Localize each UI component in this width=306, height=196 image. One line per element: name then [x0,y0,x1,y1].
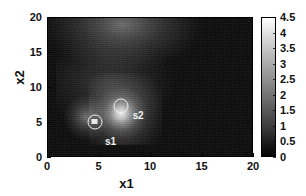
colorbar-tick-mark [273,110,276,111]
colorbar-tick-label: 2.5 [280,73,295,85]
marker-label-s2: s2 [133,110,144,121]
colorbar-tick-mark [273,95,276,96]
y-tick-mark [47,87,51,88]
colorbar-tick-mark [273,157,276,158]
colorbar-tick-label: 1.5 [280,104,295,116]
colorbar-tick-label: 0 [280,151,286,163]
x-axis-label: x1 [0,176,253,191]
square-icon [92,119,98,124]
x-tick-label: 0 [44,160,50,172]
colorbar-tick-mark [273,141,276,142]
x-tick-mark [150,153,151,157]
y-tick-label: 15 [17,46,42,58]
colorbar-tick-label: 2 [280,89,286,101]
heatmap-image [48,18,252,156]
source-marker-s2 [114,99,129,114]
x-tick-mark [99,153,100,157]
y-tick-label: 0 [17,151,42,163]
x-tick-mark [202,153,203,157]
colorbar-tick-mark [273,48,276,49]
x-tick-mark [253,153,254,157]
x-tick-label: 15 [195,160,207,172]
colorbar-tick-label: 4 [280,27,286,39]
circle-icon [114,99,129,114]
colorbar-tick-mark [273,79,276,80]
colorbar-tick-mark [273,17,276,18]
colorbar-tick-label: 0.5 [280,135,295,147]
colorbar-tick-mark [273,64,276,65]
y-tick-label: 20 [17,11,42,23]
y-axis-label: x2 [12,58,27,98]
plot-area: s1s2 [47,17,253,157]
y-tick-mark [47,122,51,123]
marker-label-s1: s1 [105,136,116,147]
colorbar-tick-mark [273,126,276,127]
colorbar-tick-label: 3.5 [280,42,295,54]
y-tick-label: 5 [17,116,42,128]
y-tick-mark [47,17,51,18]
colorbar [261,17,276,157]
noise-texture [48,18,252,156]
source-marker-s1 [87,114,102,129]
colorbar-tick-label: 4.5 [280,11,295,23]
x-tick-label: 10 [144,160,156,172]
x-tick-label: 20 [247,160,259,172]
y-tick-mark [47,157,51,158]
colorbar-tick-mark [273,33,276,34]
figure-heatmap: s1s2 05101520 05101520 x1 x2 4.543.532.5… [0,0,306,196]
colorbar-tick-label: 1 [280,120,286,132]
colorbar-tick-label: 3 [280,58,286,70]
y-tick-mark [47,52,51,53]
x-tick-label: 5 [95,160,101,172]
